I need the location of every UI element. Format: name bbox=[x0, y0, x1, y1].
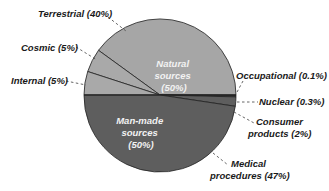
leader-cosmic bbox=[76, 47, 97, 60]
leader-consumer bbox=[234, 112, 254, 123]
label-consumer-products: Consumer products (2%) bbox=[247, 116, 311, 139]
label-internal: Internal (5%) bbox=[11, 75, 68, 86]
pie bbox=[84, 19, 236, 172]
leader-occupational bbox=[236, 81, 243, 94]
label-medical-procedures: Medical procedures (47%) bbox=[209, 158, 290, 181]
label-terrestrial: Terrestrial (40%) bbox=[38, 8, 112, 19]
pie-chart: Natural sources (50%) Man-made sources (… bbox=[0, 0, 329, 191]
leader-internal bbox=[66, 81, 86, 85]
leader-medical bbox=[213, 153, 228, 165]
label-occupational: Occupational (0.1%) bbox=[236, 70, 327, 81]
label-cosmic: Cosmic (5%) bbox=[21, 42, 78, 53]
label-nuclear: Nuclear (0.3%) bbox=[259, 96, 324, 107]
